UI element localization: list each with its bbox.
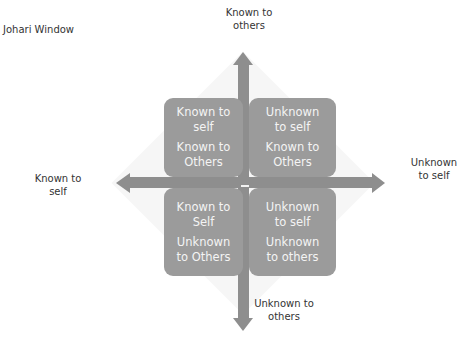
quadrant-self-label: Unknown to self xyxy=(266,105,319,135)
quadrant-others-label: Known to Others xyxy=(266,140,320,170)
quadrant-open: Known to self Known to Others xyxy=(164,98,243,177)
center-mark xyxy=(241,185,249,187)
quadrant-others-label: Unknown to others xyxy=(266,235,319,265)
arrow-up-icon xyxy=(233,52,253,65)
quadrant-unknown: Unknown to self Unknown to others xyxy=(249,188,336,276)
axis-label-left: Known to self xyxy=(28,172,88,198)
horizontal-axis-arrow-shaft xyxy=(128,177,372,188)
axis-label-bottom: Unknown to others xyxy=(244,297,324,323)
axis-label-top: Known to others xyxy=(214,6,284,32)
diagram-title: Johari Window xyxy=(3,24,74,35)
arrow-left-icon xyxy=(116,173,130,193)
quadrant-blind: Unknown to self Known to Others xyxy=(249,98,336,177)
quadrant-self-label: Known to self xyxy=(177,105,231,135)
quadrant-self-label: Known to Self xyxy=(177,200,231,230)
axis-label-right: Unknown to self xyxy=(404,156,464,182)
arrow-right-icon xyxy=(372,173,385,193)
quadrant-others-label: Known to Others xyxy=(177,140,231,170)
quadrant-self-label: Unknown to self xyxy=(266,200,319,230)
quadrant-others-label: Unknown to Others xyxy=(177,235,231,265)
quadrant-hidden: Known to Self Unknown to Others xyxy=(164,188,243,276)
